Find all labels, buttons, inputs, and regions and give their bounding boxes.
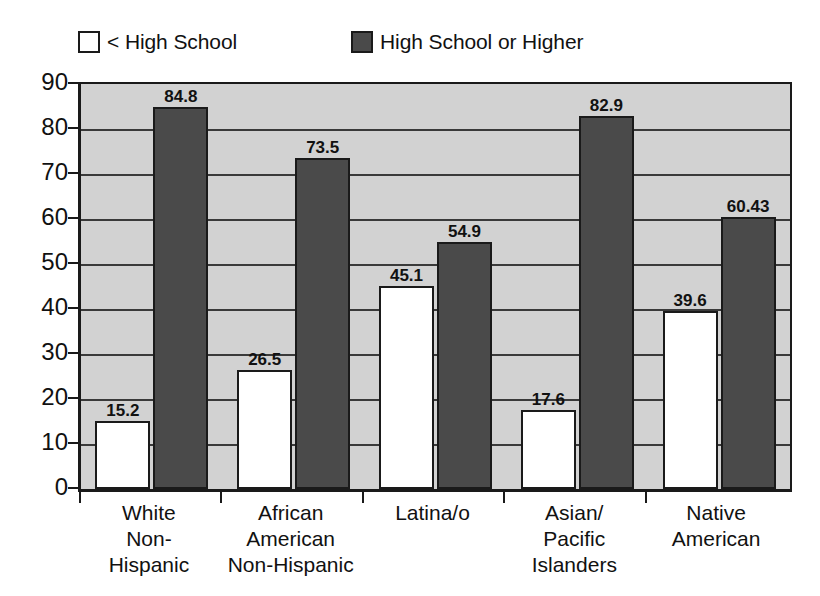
bar-value-label: 73.5: [306, 139, 339, 157]
plot-area: 15.284.826.573.545.154.917.682.939.660.4…: [78, 82, 792, 492]
bar-value-label: 17.6: [532, 391, 565, 409]
bar-value-label: 54.9: [448, 223, 481, 241]
x-axis-category-label: White Non- Hispanic: [78, 500, 220, 578]
x-axis-category-label: Asian/ Pacific Islanders: [503, 500, 645, 578]
x-axis-category-label: Native American: [645, 500, 787, 552]
y-axis-tick-label: 20: [24, 385, 68, 409]
bar-less-than-high-school: 39.6: [663, 311, 718, 489]
y-axis-tick-label: 0: [24, 475, 68, 499]
bar-less-than-high-school: 26.5: [237, 370, 292, 489]
y-axis-tick-label: 70: [24, 160, 68, 184]
x-axis-category-label: African American Non-Hispanic: [220, 500, 362, 578]
bar-value-label: 82.9: [590, 97, 623, 115]
x-axis-category-label: Latina/o: [362, 500, 504, 526]
y-axis-tick-label: 40: [24, 295, 68, 319]
y-axis-tick-label: 60: [24, 205, 68, 229]
bar-value-label: 26.5: [248, 351, 281, 369]
y-axis-tick-label: 90: [24, 70, 68, 94]
y-axis-tick-label: 30: [24, 340, 68, 364]
bar-value-label: 15.2: [106, 402, 139, 420]
y-axis-tick-label: 50: [24, 250, 68, 274]
y-axis-tick-label: 10: [24, 430, 68, 454]
bar-value-label: 45.1: [390, 267, 423, 285]
bar-value-label: 39.6: [674, 292, 707, 310]
bar-chart: 0102030405060708090 15.284.826.573.545.1…: [0, 0, 820, 596]
bar-high-school-or-higher: 73.5: [295, 158, 350, 489]
y-axis: 0102030405060708090: [10, 82, 68, 487]
bar-less-than-high-school: 15.2: [95, 421, 150, 489]
bar-high-school-or-higher: 82.9: [579, 116, 634, 489]
y-axis-tick-label: 80: [24, 115, 68, 139]
bar-high-school-or-higher: 60.43: [721, 217, 776, 489]
bar-value-label: 84.8: [164, 88, 197, 106]
bar-less-than-high-school: 17.6: [521, 410, 576, 489]
bar-less-than-high-school: 45.1: [379, 286, 434, 489]
bar-high-school-or-higher: 54.9: [437, 242, 492, 489]
x-axis-tick-mark: [79, 490, 81, 503]
bar-value-label: 60.43: [727, 198, 770, 216]
bar-high-school-or-higher: 84.8: [153, 107, 208, 489]
